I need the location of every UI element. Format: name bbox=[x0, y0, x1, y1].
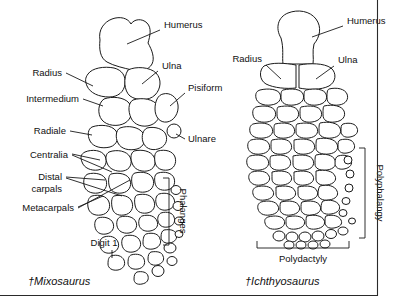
label-radiale-left: Radiale bbox=[34, 125, 66, 136]
bone-grid bbox=[253, 106, 276, 122]
bone-phalanx-d4-1 bbox=[158, 212, 175, 227]
label-metacarpals-left: Metacarpals bbox=[22, 202, 74, 213]
bone-accessory bbox=[346, 170, 354, 178]
bone-grid bbox=[320, 240, 330, 248]
bone-grid bbox=[280, 201, 300, 215]
bone-grid bbox=[319, 122, 341, 138]
bone-grid bbox=[312, 231, 324, 241]
bone-phalanx-d3-1 bbox=[139, 215, 158, 231]
bone-grid bbox=[298, 186, 318, 200]
label-humerus-left: Humerus bbox=[164, 19, 203, 30]
bone-intermedium-left bbox=[99, 97, 132, 125]
bone-accessory bbox=[345, 184, 353, 192]
bone-grid bbox=[316, 138, 338, 154]
bone-phalanx-d3-2 bbox=[143, 233, 161, 249]
bone-centralia-4 bbox=[155, 150, 176, 170]
bone-carpal-c2-left bbox=[116, 127, 145, 150]
bone-grid bbox=[294, 139, 315, 154]
label-distal-carpals-left: Distal bbox=[38, 171, 62, 182]
bone-phalanx-d2-2 bbox=[122, 235, 141, 252]
bone-grid bbox=[300, 106, 322, 122]
bone-radius-left bbox=[86, 67, 126, 97]
bone-grid bbox=[270, 155, 291, 170]
bone-grid bbox=[325, 215, 342, 228]
bone-grid bbox=[273, 231, 285, 241]
bone-grid bbox=[304, 89, 327, 105]
bone-grid bbox=[271, 139, 292, 154]
bone-grid bbox=[247, 155, 269, 170]
bone-phalanx-d3-3 bbox=[148, 252, 164, 266]
bone-distal-carpal-3 bbox=[132, 172, 154, 192]
bracket-label-polydactyly: Polydactyly bbox=[279, 253, 327, 264]
bone-accessory bbox=[349, 218, 356, 224]
label-digit-1-left: Digit 1 bbox=[91, 237, 118, 248]
bone-phalanx-d2-3 bbox=[128, 254, 145, 269]
bone-phalanx-d1-1 bbox=[95, 217, 114, 234]
label-humerus-right: Humerus bbox=[347, 15, 386, 26]
bone-grid bbox=[315, 154, 336, 170]
bone-grid bbox=[272, 171, 292, 185]
bone-grid bbox=[250, 123, 273, 138]
label-radius-left: Radius bbox=[32, 67, 62, 78]
bone-grid bbox=[248, 139, 270, 154]
bone-phalanx-d2-4 bbox=[134, 272, 148, 285]
bone-phalanx-d1-3 bbox=[108, 255, 125, 270]
bone-grid bbox=[301, 201, 321, 215]
label-distal-carpals-left-2: carpals bbox=[31, 183, 62, 194]
bone-phalanx-d4-3 bbox=[164, 243, 176, 253]
bone-grid bbox=[323, 105, 345, 122]
bone-grid bbox=[249, 171, 270, 185]
bone-carpal-c3-left bbox=[142, 127, 166, 149]
label-ulna-left: Ulna bbox=[162, 60, 182, 71]
bone-grid bbox=[338, 139, 355, 153]
caption-ichthyosaurus: †Ichthyosaurus bbox=[245, 275, 320, 287]
ichthyosaurus-phalangeal-grid bbox=[247, 88, 358, 249]
bone-accessory bbox=[339, 210, 347, 217]
bone-ulna-right bbox=[299, 64, 335, 90]
bone-grid bbox=[276, 186, 296, 200]
bone-grid bbox=[327, 88, 348, 105]
bone-grid bbox=[286, 232, 298, 242]
bone-radiale-left bbox=[88, 125, 118, 147]
label-pisiform-left: Pisiform bbox=[188, 82, 222, 93]
bone-grid bbox=[306, 215, 325, 229]
bracket-polyphalangy: Polyphalangy bbox=[359, 148, 386, 238]
label-ulnare-left: Ulnare bbox=[188, 133, 216, 144]
bone-grid bbox=[281, 89, 304, 105]
bone-phalanx-d2-1 bbox=[117, 216, 137, 233]
label-radius-right: Radius bbox=[232, 53, 262, 64]
bone-grid bbox=[294, 171, 314, 185]
bone-grid bbox=[293, 155, 314, 170]
bone-metacarpal-2 bbox=[112, 195, 133, 215]
bone-centralia-3 bbox=[131, 150, 155, 171]
bone-grid bbox=[258, 201, 279, 215]
bracket-label-polyphalangy: Polyphalangy bbox=[375, 164, 386, 221]
leader-intermedium-left bbox=[83, 99, 103, 106]
bone-centralia-2 bbox=[106, 151, 131, 172]
bone-grid bbox=[296, 123, 318, 138]
label-ulna-right: Ulna bbox=[338, 54, 358, 65]
label-centralia-left: Centralia bbox=[30, 149, 69, 160]
ichthyosaurus-skeleton bbox=[247, 11, 358, 249]
bone-grid bbox=[326, 230, 337, 239]
bone-metacarpal-3 bbox=[135, 194, 155, 213]
bone-grid bbox=[286, 216, 305, 229]
bone-grid bbox=[256, 89, 281, 105]
bone-grid bbox=[338, 227, 348, 235]
bone-grid bbox=[299, 232, 311, 242]
bone-grid bbox=[321, 200, 340, 214]
bone-pisiform-left bbox=[155, 94, 178, 123]
bone-grid bbox=[318, 185, 338, 200]
bone-grid bbox=[341, 123, 358, 137]
bracket-label-phalanges: Phalanges bbox=[178, 189, 189, 234]
label-intermedium-left: Intermedium bbox=[26, 93, 79, 104]
bone-grid bbox=[265, 216, 285, 229]
bone-grid bbox=[274, 123, 295, 138]
bone-grid bbox=[253, 186, 274, 200]
bone-accessory bbox=[344, 156, 352, 164]
bone-metacarpal-4 bbox=[156, 193, 175, 210]
bone-accessory bbox=[342, 198, 350, 205]
bone-humerus-left bbox=[100, 18, 154, 71]
bone-humerus-right bbox=[278, 11, 320, 64]
bone-grid bbox=[277, 106, 299, 122]
